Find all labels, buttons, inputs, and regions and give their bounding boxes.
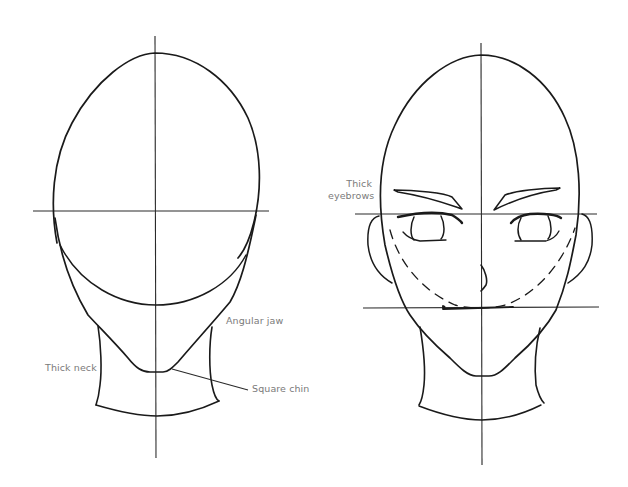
right-left-eyebrow — [394, 190, 462, 209]
left-vertical-guideline — [155, 36, 156, 458]
right-left-eye — [398, 213, 462, 241]
right-right-eye — [511, 214, 561, 241]
label-thick-eyebrows: Thick eyebrows — [328, 178, 372, 202]
left-neck-bottom-curve — [96, 401, 219, 416]
label-thick-eyebrows-line2: eyebrows — [328, 190, 372, 202]
head-drawing-canvas — [0, 0, 628, 487]
right-right-ear — [568, 214, 592, 283]
right-head — [355, 43, 599, 465]
right-neck-left-side — [419, 327, 425, 405]
label-thick-eyebrows-line1: Thick — [328, 178, 372, 190]
label-square-chin: Square chin — [252, 383, 309, 395]
right-neck-right-side — [535, 328, 544, 403]
right-right-eyebrow — [494, 188, 560, 210]
left-head — [33, 36, 269, 458]
left-neck-right-side — [210, 327, 219, 401]
right-mouth-corner — [443, 306, 446, 309]
label-thick-neck: Thick neck — [45, 362, 97, 374]
left-cranium-outline — [53, 53, 259, 258]
right-left-ear — [368, 216, 392, 283]
label-angular-jaw: Angular jaw — [226, 315, 283, 327]
right-vertical-guideline — [481, 43, 482, 465]
left-cranium-bottom-curve — [60, 245, 246, 305]
right-neck-bottom-curve — [419, 405, 541, 420]
